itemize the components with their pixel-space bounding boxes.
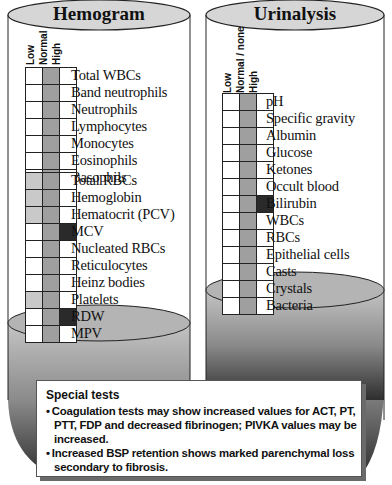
normal-cell bbox=[240, 230, 257, 247]
parameter-label: Band neutrophils bbox=[71, 84, 167, 101]
normal-cell bbox=[43, 173, 60, 190]
grid-row bbox=[26, 119, 77, 136]
grid-row bbox=[26, 136, 77, 153]
low-cell bbox=[223, 281, 240, 298]
low-cell bbox=[223, 230, 240, 247]
grid-row bbox=[26, 275, 77, 292]
parameter-label: Glucose bbox=[266, 144, 355, 161]
low-cell bbox=[26, 136, 43, 153]
normal-cell bbox=[43, 309, 60, 326]
parameter-label: Casts bbox=[266, 263, 355, 280]
low-cell bbox=[26, 68, 43, 85]
low-cell bbox=[26, 292, 43, 309]
normal-cell bbox=[43, 102, 60, 119]
normal-cell bbox=[43, 68, 60, 85]
normal-cell bbox=[240, 179, 257, 196]
grid-row bbox=[26, 102, 77, 119]
grid-row bbox=[26, 68, 77, 85]
parameter-label: Ketones bbox=[266, 161, 355, 178]
parameter-label: Nucleated RBCs bbox=[71, 240, 175, 257]
normal-cell bbox=[240, 162, 257, 179]
low-cell bbox=[223, 128, 240, 145]
parameter-label: Epithelial cells bbox=[266, 246, 355, 263]
special-tests-heading: Special tests bbox=[46, 388, 361, 402]
parameter-label: Neutrophils bbox=[71, 101, 167, 118]
hemogram-col-normal: Normal bbox=[38, 31, 49, 65]
normal-cell bbox=[43, 190, 60, 207]
grid-row bbox=[26, 153, 77, 170]
normal-cell bbox=[43, 326, 60, 343]
low-cell bbox=[26, 275, 43, 292]
parameter-label: Total RBCs bbox=[71, 172, 175, 189]
parameter-label: Monocytes bbox=[71, 135, 167, 152]
hemogram-title: Hemogram bbox=[8, 3, 190, 25]
grid-row bbox=[26, 190, 77, 207]
urinalysis-col-low: Low bbox=[222, 73, 233, 93]
grid-row bbox=[26, 258, 77, 275]
parameter-label: Bacteria bbox=[266, 297, 355, 314]
low-cell bbox=[223, 247, 240, 264]
low-cell bbox=[26, 153, 43, 170]
low-cell bbox=[26, 207, 43, 224]
urinalysis-labels: pHSpecific gravityAlbuminGlucoseKetonesO… bbox=[266, 93, 355, 314]
normal-cell bbox=[43, 292, 60, 309]
low-cell bbox=[26, 85, 43, 102]
hemogram-wbc-labels: Total WBCsBand neutrophilsNeutrophilsLym… bbox=[71, 67, 167, 186]
parameter-label: Lymphocytes bbox=[71, 118, 167, 135]
normal-cell bbox=[240, 281, 257, 298]
hemogram-col-high: High bbox=[51, 43, 62, 65]
urinalysis-col-normal: Normal / none bbox=[235, 26, 246, 93]
special-tests-box: Special tests Coagulation tests may show… bbox=[36, 380, 362, 477]
grid-row bbox=[26, 173, 77, 190]
parameter-label: MCV bbox=[71, 223, 175, 240]
parameter-label: MPV bbox=[71, 325, 175, 342]
grid-row bbox=[26, 292, 77, 309]
low-cell bbox=[223, 111, 240, 128]
grid-row bbox=[26, 326, 77, 343]
urinalysis-col-high: High bbox=[248, 71, 259, 93]
low-cell bbox=[26, 190, 43, 207]
parameter-label: WBCs bbox=[266, 212, 355, 229]
normal-cell bbox=[240, 264, 257, 281]
parameter-label: Specific gravity bbox=[266, 110, 355, 127]
grid-row bbox=[26, 224, 77, 241]
grid-row bbox=[26, 207, 77, 224]
grid-row bbox=[26, 241, 77, 258]
normal-cell bbox=[43, 136, 60, 153]
parameter-label: Albumin bbox=[266, 127, 355, 144]
parameter-label: Hemoglobin bbox=[71, 189, 175, 206]
parameter-label: Reticulocytes bbox=[71, 257, 175, 274]
normal-cell bbox=[43, 153, 60, 170]
low-cell bbox=[26, 241, 43, 258]
low-cell bbox=[26, 102, 43, 119]
low-cell bbox=[223, 264, 240, 281]
parameter-label: Eosinophils bbox=[71, 152, 167, 169]
parameter-label: Bilirubin bbox=[266, 195, 355, 212]
parameter-label: RBCs bbox=[266, 229, 355, 246]
hemogram-wbc-grid bbox=[25, 67, 77, 187]
special-tests-list: Coagulation tests may show increased val… bbox=[37, 404, 361, 474]
normal-cell bbox=[43, 224, 60, 241]
normal-cell bbox=[43, 258, 60, 275]
normal-cell bbox=[240, 111, 257, 128]
urinalysis-title: Urinalysis bbox=[206, 3, 384, 25]
normal-cell bbox=[240, 196, 257, 213]
normal-cell bbox=[240, 247, 257, 264]
special-tests-item: Increased BSP retention shows marked par… bbox=[46, 446, 361, 474]
grid-row bbox=[26, 85, 77, 102]
low-cell bbox=[26, 173, 43, 190]
parameter-label: Total WBCs bbox=[71, 67, 167, 84]
hemogram-col-low: Low bbox=[25, 45, 36, 65]
diagram-canvas: Hemogram Low Normal High Total WBCsBand … bbox=[0, 0, 392, 485]
low-cell bbox=[26, 258, 43, 275]
normal-cell bbox=[240, 128, 257, 145]
normal-cell bbox=[240, 213, 257, 230]
parameter-label: Occult blood bbox=[266, 178, 355, 195]
normal-cell bbox=[43, 275, 60, 292]
normal-cell bbox=[240, 145, 257, 162]
parameter-label: Crystals bbox=[266, 280, 355, 297]
low-cell bbox=[223, 162, 240, 179]
low-cell bbox=[223, 298, 240, 315]
parameter-label: Platelets bbox=[71, 291, 175, 308]
normal-cell bbox=[240, 298, 257, 315]
